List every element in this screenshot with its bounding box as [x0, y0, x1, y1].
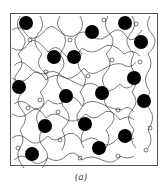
filler-particle: [92, 141, 106, 155]
filler-particle: [127, 71, 141, 85]
filler-particle: [78, 117, 92, 131]
filler-particle: [118, 16, 132, 30]
filler-particle: [25, 147, 39, 161]
filler-particle: [134, 35, 148, 49]
filler-particle: [137, 94, 151, 108]
polymer-chains: [12, 16, 155, 168]
filler-particle: [85, 25, 99, 39]
filler-particle: [95, 86, 109, 100]
filler-particles: [12, 16, 151, 161]
filler-particle: [67, 50, 81, 64]
filler-network-diagram: [0, 0, 162, 189]
filler-particle: [19, 16, 33, 30]
figure-caption: (a): [0, 172, 162, 182]
filler-particle: [118, 129, 132, 143]
filler-particle: [12, 80, 26, 94]
filler-particle: [38, 119, 52, 133]
filler-particle: [47, 50, 61, 64]
filler-particle: [59, 89, 73, 103]
